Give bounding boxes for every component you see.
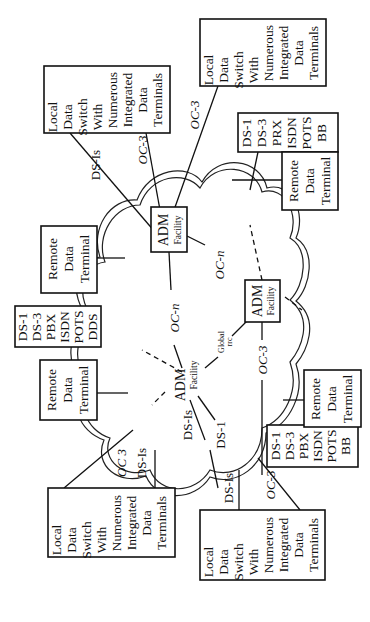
box-line: PBX <box>43 314 58 341</box>
link-label: OC-n <box>212 251 227 280</box>
link-label: OC 3 <box>114 449 129 477</box>
box-line: Data <box>135 87 150 112</box>
box-line: DS-1 <box>15 313 30 342</box>
box-line: POTS <box>324 429 339 462</box>
box-line: With <box>246 549 261 576</box>
box-line: Integrated <box>276 517 291 572</box>
box-line: DDS <box>85 313 100 340</box>
box-line: Data <box>60 377 75 402</box>
local-switch-bottom-left: Local Data Switch With Numerous Integrat… <box>48 488 175 559</box>
box-line: ISDN <box>284 117 299 149</box>
box-line: DS-3 <box>29 313 44 342</box>
remote-terminal-top-right: Remote Data Terminal <box>282 152 338 210</box>
box-line: PRX <box>269 120 284 147</box>
box-line: Terminals <box>306 26 321 80</box>
link-label: DS-Is <box>134 448 149 478</box>
box-line: Data <box>216 57 231 82</box>
box-line: Switch <box>75 98 90 136</box>
link-label: DS-Is <box>221 473 236 503</box>
box-line: Numerous <box>261 517 276 573</box>
adm-node-top: ADM Facility <box>151 207 187 252</box>
local-switch-bottom-right: Local Data Switch With Numerous Integrat… <box>200 510 325 581</box>
box-line: Data <box>291 40 306 65</box>
local-switch-top-right: Local Data Switch With Numerous Integrat… <box>200 19 326 89</box>
box-line: Switch <box>79 521 94 559</box>
box-line: Remote <box>45 238 60 280</box>
box-line: Data <box>291 532 306 557</box>
box-line: DS-1 <box>239 119 254 148</box>
box-line: Local <box>45 101 60 132</box>
box-line: POTS <box>71 310 86 343</box>
link-label: OC-3 <box>135 135 150 164</box>
facility-label: Facility <box>173 215 183 244</box>
box-line: Terminal <box>77 234 92 283</box>
box-line: Data <box>60 104 75 129</box>
box-line: Data <box>302 168 317 193</box>
box-line: With <box>246 57 261 84</box>
box-line: Data <box>61 246 76 271</box>
box-line: Remote <box>286 160 301 202</box>
facility-label: Facility <box>189 360 199 389</box>
box-line: Data <box>216 549 231 574</box>
box-line: Remote <box>308 378 323 420</box>
box-line: Local <box>201 546 216 577</box>
box-line: Numerous <box>109 495 124 551</box>
remote-terminal-left-lower: Remote Data Terminal <box>40 360 97 420</box>
box-line: With <box>90 104 105 131</box>
box-line: With <box>94 527 109 554</box>
link-label: DS-Is <box>180 410 195 440</box>
adm-node-right: ADM Facility <box>245 280 280 322</box>
box-line: Numerous <box>105 72 120 128</box>
box-line: ISDN <box>310 430 325 462</box>
box-line: DS-3 <box>254 119 269 148</box>
link-label: DS-Is <box>88 150 103 180</box>
box-line: Integrated <box>124 495 139 550</box>
box-line: Integrated <box>276 25 291 80</box>
service-box-bottom-right: DS-1 DS-3 PBX ISDN POTS BB <box>267 425 358 467</box>
box-line: Terminal <box>318 156 333 205</box>
remote-terminal-bottom-right: Remote Data Terminal <box>304 370 361 427</box>
box-line: Terminal <box>340 374 355 423</box>
box-line: Local <box>49 524 64 555</box>
box-line: DS-1 <box>268 432 283 461</box>
service-box-left: DS-1 DS-3 PBX ISDN POTS DDS <box>15 306 101 347</box>
box-line: ISDN <box>57 311 72 343</box>
box-line: BB <box>314 124 329 142</box>
link-label: DS-1 <box>213 421 228 448</box>
box-line: Data <box>324 386 339 411</box>
box-line: Local <box>201 54 216 85</box>
box-line: Terminals <box>154 496 169 550</box>
link-label: OC-n <box>167 304 182 333</box>
adm-label: ADM <box>173 368 188 401</box>
box-line: Terminal <box>76 365 91 414</box>
box-line: Data <box>64 527 79 552</box>
box-line: Numerous <box>261 25 276 81</box>
box-line: Terminals <box>150 73 165 127</box>
remote-terminal-left-upper: Remote Data Terminal <box>41 226 97 293</box>
adm-label: ADM <box>156 213 171 246</box>
box-line: Integrated <box>120 72 135 127</box>
box-line: Remote <box>44 369 59 411</box>
adm-label: ADM <box>250 284 265 317</box>
service-box-top-right: DS-1 DS-3 PRX ISDN POTS BB <box>238 113 338 152</box>
facility-label: Facility <box>266 286 276 315</box>
box-line: BB <box>338 437 353 455</box>
network-diagram: Local Data Switch With Numerous Integrat… <box>0 0 370 622</box>
link-label: rrc <box>225 337 234 346</box>
box-line: PBX <box>296 433 311 460</box>
box-line: Switch <box>231 543 246 581</box>
link-label: OC-3 <box>255 345 270 374</box>
box-line: Terminals <box>306 518 321 572</box>
adm-node-left: ADM Facility <box>173 360 199 401</box>
box-line: Switch <box>231 51 246 89</box>
box-line: Data <box>139 510 154 535</box>
link-label: OC-3 <box>187 100 202 129</box>
box-line: POTS <box>299 116 314 149</box>
box-line: DS-3 <box>282 432 297 461</box>
link-label: OC-3 <box>263 470 278 499</box>
local-switch-top-left: Local Data Switch With Numerous Integrat… <box>44 66 170 136</box>
